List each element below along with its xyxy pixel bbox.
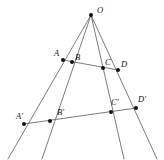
point-C-prime (109, 110, 113, 114)
point-A-prime (22, 122, 26, 126)
geometry-diagram: OABCDA'B'C'D' (0, 0, 164, 160)
label-A: A (54, 49, 59, 58)
point-dot-group (22, 13, 138, 126)
ray-OC-line (91, 15, 124, 159)
label-D: D (121, 60, 127, 69)
point-B-prime (48, 119, 52, 123)
point-D (116, 68, 120, 72)
label-B-prime: B' (57, 108, 64, 117)
label-C-prime: C' (111, 98, 119, 107)
label-A-prime: A' (16, 112, 23, 121)
lower-transversal-line (24, 108, 136, 124)
diagram-canvas (0, 0, 164, 160)
point-B (70, 60, 74, 64)
ray-OD-line (91, 15, 157, 159)
label-O: O (97, 6, 103, 15)
point-D-prime (134, 106, 138, 110)
point-O (89, 13, 93, 17)
label-B: B (75, 53, 80, 62)
label-D-prime: D' (138, 95, 146, 104)
label-C: C (105, 58, 111, 67)
point-A (61, 58, 65, 62)
ray-group (8, 15, 157, 159)
